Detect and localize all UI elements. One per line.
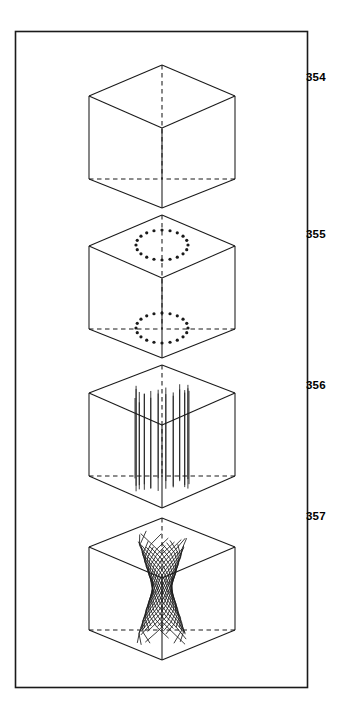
ring-dot (185, 248, 188, 251)
figure-number-label-357: 357 (306, 511, 326, 523)
figure-number-label-354: 354 (306, 72, 326, 84)
cube-edge-bottom-front-left (89, 329, 162, 358)
ring-dot (136, 322, 139, 325)
ring-dot (160, 341, 163, 344)
cube-edge-bottom-front-left (89, 179, 162, 208)
cube-edge-top-front-right (162, 96, 235, 128)
cube-edge-bottom-front-right (162, 329, 235, 358)
ring-dot (145, 339, 148, 342)
ring-dot (139, 318, 142, 321)
figure-354 (89, 65, 235, 208)
ring-dot (145, 231, 148, 234)
ring-dot (136, 248, 139, 251)
ring-dot (139, 235, 142, 238)
ring-dot (168, 258, 171, 261)
ring-dot (181, 335, 184, 338)
cube-edge-top-left (89, 518, 162, 547)
ring-dot (139, 335, 142, 338)
figure-355 (89, 215, 235, 358)
ring-dot (181, 252, 184, 255)
cube-edge-top-front-right (162, 547, 235, 578)
cube-edge-top-front-left (89, 96, 162, 128)
ring-dot (168, 341, 171, 344)
ring-dot (176, 314, 179, 317)
ring-dot (186, 326, 189, 329)
figure-canvas (0, 0, 355, 703)
ring-dot (176, 339, 179, 342)
ring-dot (181, 235, 184, 238)
cube-edge-top-front-right (162, 246, 235, 278)
ring-dot (152, 229, 155, 232)
ring-dot (134, 243, 137, 246)
ring-dot (145, 256, 148, 259)
ring-dot (152, 258, 155, 261)
ring-dot (186, 243, 189, 246)
figure-number-label-356: 356 (306, 380, 326, 392)
ring-dot (160, 311, 163, 314)
cube-edge-top-right (162, 365, 235, 393)
ring-dot (152, 341, 155, 344)
ring-dot (136, 239, 139, 242)
figure-356 (89, 365, 235, 508)
cube-edge-top-left (89, 65, 162, 96)
ring-dot (160, 258, 163, 261)
ring-dot (152, 312, 155, 315)
ring-dot (181, 318, 184, 321)
figure-357 (89, 518, 235, 660)
patent-drawing-sheet: 354355356357 (0, 0, 355, 703)
ring-dot (145, 314, 148, 317)
cube-edge-top-right (162, 215, 235, 246)
cube-edge-bottom-front-right (162, 179, 235, 208)
ring-dot (136, 331, 139, 334)
ring-dot (160, 228, 163, 231)
cube-edge-top-right (162, 65, 235, 96)
cube-edge-bottom-front-left (89, 630, 162, 660)
cube-edge-top-left (89, 215, 162, 246)
cube-edge-top-left (89, 365, 162, 393)
ring-dot (185, 239, 188, 242)
ring-dot (139, 252, 142, 255)
cube-edge-top-right (162, 518, 235, 547)
ring-dot (168, 229, 171, 232)
cube-edge-bottom-front-right (162, 630, 235, 660)
ring-dot (168, 312, 171, 315)
ring-dot (185, 331, 188, 334)
figure-number-label-355: 355 (306, 229, 326, 241)
cube-edge-top-front-left (89, 246, 162, 278)
ring-dot (176, 231, 179, 234)
ring-dot (134, 326, 137, 329)
ring-dot (185, 322, 188, 325)
ring-dot (176, 256, 179, 259)
